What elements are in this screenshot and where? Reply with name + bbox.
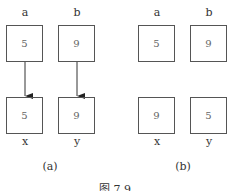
label-x: x [6, 135, 44, 148]
label-b: b [190, 6, 228, 19]
panel-b-caption: (b) [163, 160, 203, 173]
box-x: 5 [6, 97, 43, 134]
box-b: 9 [58, 25, 95, 62]
label-a: a [6, 6, 44, 19]
label-a: a [138, 6, 176, 19]
label-y: y [190, 135, 228, 148]
panel-a-caption: (a) [30, 160, 70, 173]
box-y: 5 [190, 97, 227, 134]
box-a: 5 [6, 25, 43, 62]
box-y: 9 [58, 97, 95, 134]
box-a: 5 [138, 25, 175, 62]
figure-caption: 图 7.9 [90, 180, 140, 191]
label-y: y [58, 135, 96, 148]
box-b: 9 [190, 25, 227, 62]
label-x: x [138, 135, 176, 148]
label-b: b [58, 6, 96, 19]
box-x: 9 [138, 97, 175, 134]
